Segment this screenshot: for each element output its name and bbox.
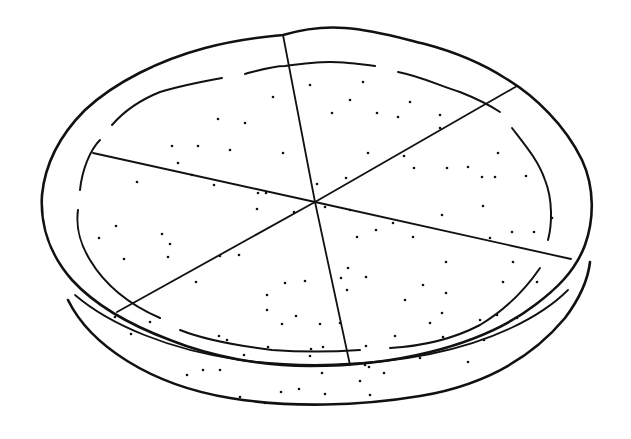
pie-outer-rim	[42, 27, 592, 366]
cut-lower-right	[315, 202, 571, 259]
cut-top	[283, 35, 315, 202]
cut-upper-right	[315, 86, 517, 202]
pie-filling-dots	[98, 81, 554, 405]
cut-lower-left	[117, 202, 315, 312]
pie-dish-bottom	[68, 262, 590, 405]
pie-drawing	[0, 0, 631, 439]
pie-inner-dish-edge	[75, 290, 568, 365]
pie-slice-cuts	[93, 35, 571, 365]
cut-bottom	[315, 202, 350, 365]
pie-crust-edge	[77, 62, 551, 352]
pie-illustration	[0, 0, 631, 439]
cut-left	[93, 153, 315, 202]
